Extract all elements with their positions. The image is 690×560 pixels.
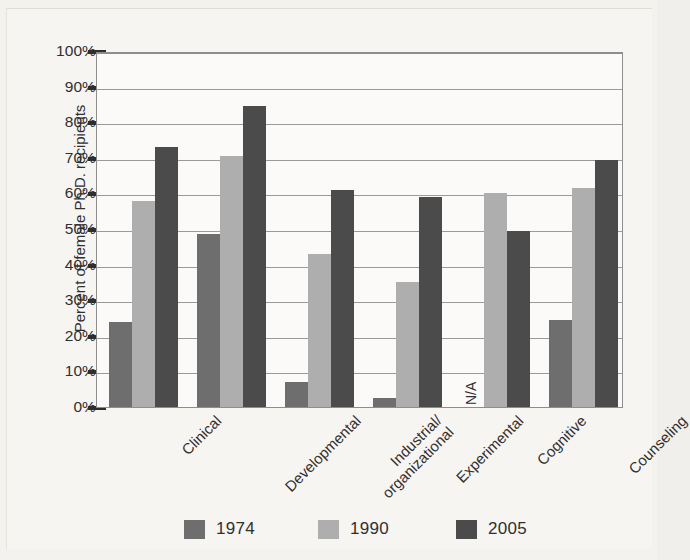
- bar-2005-clinical[interactable]: [155, 147, 178, 407]
- bar-1990-developmental[interactable]: [220, 156, 243, 407]
- legend-label: 2005: [488, 519, 527, 539]
- legend-label: 1990: [350, 519, 389, 539]
- x-axis-label-line: Cognitive: [534, 412, 590, 468]
- x-axis-label-line: Developmental: [281, 412, 364, 495]
- bar-1974-counseling[interactable]: [549, 320, 572, 407]
- chart-legend: 197419902005: [96, 514, 596, 544]
- bar-group: [373, 53, 442, 407]
- bar-1990-clinical[interactable]: [132, 201, 155, 407]
- bar-2005-cognitive[interactable]: [507, 231, 530, 407]
- legend-swatch-icon: [318, 520, 339, 539]
- bar-2005-developmental[interactable]: [243, 106, 266, 407]
- bar-series-group: N/A: [97, 53, 622, 407]
- bar-1974-industrialorganizational[interactable]: [285, 382, 308, 407]
- legend-swatch-icon: [456, 520, 477, 539]
- bar-1990-counseling[interactable]: [572, 188, 595, 407]
- y-axis-tick-group: 100%90%80%70%60%50%40%30%20%10%0%: [12, 0, 96, 560]
- x-axis-label-line: Experimental: [453, 412, 527, 486]
- bar-group: [197, 53, 266, 407]
- legend-swatch-icon: [184, 520, 205, 539]
- bar-1990-industrialorganizational[interactable]: [308, 254, 331, 407]
- x-axis-label: Cognitive: [534, 412, 590, 468]
- x-axis-label: Developmental: [281, 412, 364, 495]
- bar-2005-experimental[interactable]: [419, 197, 442, 407]
- plot-area: N/A: [96, 52, 623, 408]
- bar-1974-clinical[interactable]: [109, 322, 132, 407]
- bar-group: [549, 53, 618, 407]
- bar-2005-industrialorganizational[interactable]: [331, 190, 354, 407]
- bar-1974-experimental[interactable]: [373, 398, 396, 407]
- x-axis-label-line: Clinical: [178, 412, 224, 458]
- legend-label: 1974: [216, 519, 255, 539]
- x-axis-label: Experimental: [453, 412, 527, 486]
- bar-1990-cognitive[interactable]: [484, 193, 507, 407]
- legend-item-1974[interactable]: 1974: [184, 519, 255, 539]
- x-axis-label: Clinical: [178, 412, 224, 458]
- bar-1974-developmental[interactable]: [197, 234, 220, 407]
- x-axis-label: Industrial/organizational: [367, 412, 457, 502]
- legend-item-2005[interactable]: 2005: [456, 519, 527, 539]
- bar-1990-experimental[interactable]: [396, 282, 419, 407]
- legend-item-1990[interactable]: 1990: [318, 519, 389, 539]
- x-axis-tick-group: ClinicalDevelopmentalIndustrial/organiza…: [96, 408, 623, 508]
- bar-group: [109, 53, 178, 407]
- bar-group: N/A: [461, 53, 530, 407]
- na-annotation: N/A: [463, 382, 479, 405]
- bar-2005-counseling[interactable]: [595, 160, 618, 407]
- bar-group: [285, 53, 354, 407]
